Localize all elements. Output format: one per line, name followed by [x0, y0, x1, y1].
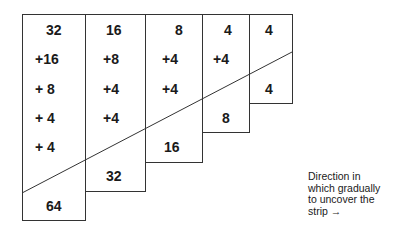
col2-addition-3: +4 [103, 110, 119, 126]
col5-top-value: 4 [265, 22, 273, 38]
col4-bottom-value: 8 [222, 110, 230, 126]
col3-addition-1: +4 [162, 51, 178, 67]
caption-line-1: Direction in [308, 171, 395, 183]
caption-line-3: to uncover the [308, 194, 395, 206]
col1-addition-3: + 4 [35, 110, 55, 126]
col2-top-value: 16 [106, 22, 122, 38]
col1-addition-4: + 4 [35, 139, 55, 155]
col1-addition-1: +16 [35, 51, 59, 67]
col3-bottom-value: 16 [164, 139, 180, 155]
col4-addition-1: +4 [213, 51, 229, 67]
col2-bottom-value: 32 [106, 168, 122, 184]
col1-addition-2: + 8 [35, 81, 55, 97]
col1-bottom-value: 64 [46, 198, 62, 214]
col2-addition-2: +4 [103, 81, 119, 97]
col5-bottom-value: 4 [265, 81, 273, 97]
col2-addition-1: +8 [103, 51, 119, 67]
direction-caption: Direction in which gradually to uncover … [308, 171, 395, 217]
caption-line-4: strip → [308, 206, 395, 218]
col3-addition-2: +4 [162, 81, 178, 97]
col3-top-value: 8 [175, 22, 183, 38]
col4-top-value: 4 [224, 22, 232, 38]
col1-top-value: 32 [46, 22, 62, 38]
